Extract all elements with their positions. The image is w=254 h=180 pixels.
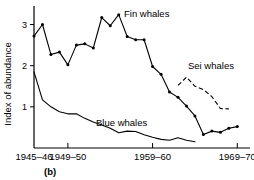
data-point-marker — [66, 63, 69, 66]
chart-figure: Index of abundance 123 1945–461949–50195… — [0, 0, 254, 180]
data-point-marker — [143, 38, 146, 41]
y-tick-label: 2 — [22, 61, 27, 71]
data-point-marker — [185, 105, 188, 108]
y-tick-label: 3 — [22, 20, 27, 30]
data-point-marker — [49, 53, 52, 56]
data-point-marker — [202, 133, 205, 136]
data-point-marker — [41, 23, 44, 26]
y-axis-ticks: 123 — [22, 20, 34, 112]
data-point-marker — [109, 24, 112, 27]
series-label-fin-whales: Fin whales — [124, 8, 170, 19]
data-point-marker — [219, 131, 222, 134]
data-point-marker — [210, 130, 213, 133]
data-point-marker — [58, 51, 61, 54]
x-tick-label: 1949–50 — [49, 151, 86, 162]
series-annotations: Fin whalesBlue whalesSei whales — [96, 8, 234, 128]
data-point-marker — [100, 16, 103, 19]
data-point-marker — [236, 125, 239, 128]
x-tick-label: 1969–70 — [219, 151, 254, 162]
data-point-marker — [83, 42, 86, 45]
data-point-marker — [160, 73, 163, 76]
data-point-marker — [193, 114, 196, 117]
whale-abundance-line-chart: Index of abundance 123 1945–461949–50195… — [0, 0, 254, 180]
data-point-marker — [33, 35, 36, 38]
x-axis-ticks: 1945–461949–501959–601969–70 — [16, 143, 254, 162]
x-tick-label: 1959–60 — [134, 151, 171, 162]
data-point-marker — [117, 13, 120, 16]
data-point-marker — [92, 46, 95, 49]
data-point-marker — [126, 35, 129, 38]
data-point-marker — [75, 44, 78, 47]
data-point-marker — [227, 127, 230, 130]
y-tick-label: 1 — [22, 102, 27, 112]
panel-label: (b) — [44, 166, 56, 177]
y-axis-label: Index of abundance — [2, 42, 13, 125]
series-label-blue-whales: Blue whales — [96, 117, 147, 128]
data-point-marker — [168, 91, 171, 94]
x-tick-label: 1945–46 — [16, 151, 53, 162]
series-label-sei-whales: Sei whales — [188, 60, 234, 71]
series-line-blue-whales — [34, 72, 195, 142]
data-point-marker — [151, 65, 154, 68]
data-point-marker — [134, 38, 137, 41]
series-line-sei-whales — [178, 77, 229, 109]
data-point-marker — [177, 96, 180, 99]
